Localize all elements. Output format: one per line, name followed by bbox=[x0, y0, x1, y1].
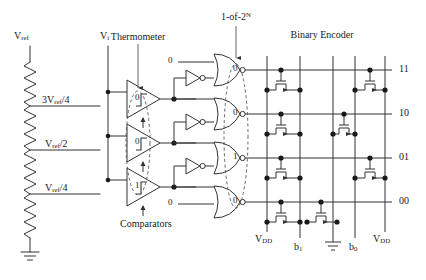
flash-adc-figure: Vref Vi 3Vref/4 Vref/2 Vref/4 Thermomete… bbox=[0, 0, 426, 280]
ladder-tap-label-1: 3Vref/4 bbox=[42, 95, 70, 106]
thermometer-bit-0: 0 bbox=[135, 93, 140, 102]
thermometer-section-label: Thermometer bbox=[111, 32, 165, 42]
one-of-2n-bit-3: 0 bbox=[233, 196, 238, 205]
resistor-ladder bbox=[21, 46, 39, 260]
ladder-tap-label-2: Vref/2 bbox=[45, 139, 68, 150]
one-of-2n-bit-1: 0 bbox=[233, 108, 238, 117]
one-of-2n-section-label: 1-of-2N bbox=[221, 12, 251, 22]
thermometer-branch-wires bbox=[174, 78, 186, 187]
b1-output-label: b1 bbox=[294, 242, 302, 253]
nor-bottom-extra-input-label: 0 bbox=[168, 198, 173, 207]
transistor-r01-c2 bbox=[355, 158, 385, 180]
inverter-1 bbox=[186, 70, 214, 86]
vdd-right-label: VDD bbox=[373, 234, 390, 245]
b0-output-label: b0 bbox=[349, 242, 357, 253]
vref-source-label: Vref bbox=[14, 31, 29, 42]
inverter-2 bbox=[186, 114, 214, 130]
vdd-left-label: VDD bbox=[255, 234, 272, 245]
one-of-2n-bit-2: 1 bbox=[233, 152, 238, 161]
transistor-r11-c2 bbox=[355, 70, 385, 92]
ladder-tap-label-3: Vref/4 bbox=[45, 183, 68, 194]
nor-gate-3 bbox=[214, 142, 262, 174]
comparators-section-label: Comparators bbox=[120, 219, 172, 229]
thermometer-bit-2: 1 bbox=[135, 181, 140, 190]
encoder-output-01: 01 bbox=[399, 152, 409, 162]
nor-gate-1 bbox=[214, 54, 262, 86]
vi-input-bus bbox=[108, 46, 127, 182]
transistor-r10-c2 bbox=[333, 114, 355, 136]
transistor-r00-c1 bbox=[267, 202, 300, 224]
transistor-r00-c2-dots bbox=[304, 199, 339, 224]
nor-gate-4 bbox=[214, 186, 262, 218]
vi-input-label: Vi bbox=[100, 31, 109, 42]
inverter-3 bbox=[186, 158, 214, 174]
nor-top-extra-input-label: 0 bbox=[168, 56, 173, 65]
encoder-output-11: 11 bbox=[399, 64, 409, 74]
encoder-output-10: 10 bbox=[399, 108, 409, 118]
transistor-r01-c1 bbox=[267, 158, 300, 180]
nor-gate-2 bbox=[214, 98, 262, 130]
thermometer-direct-wires bbox=[174, 99, 214, 187]
encoder-output-00: 00 bbox=[399, 196, 409, 206]
transistor-r10-c1 bbox=[267, 114, 300, 136]
nor-extra-input-wires bbox=[178, 62, 214, 204]
comparator-3 bbox=[127, 168, 196, 216]
one-of-2n-bit-0: 0 bbox=[233, 64, 238, 73]
thermometer-bit-1: 0 bbox=[135, 137, 140, 146]
transistor-r11-c1 bbox=[267, 70, 300, 92]
binary-encoder-section-label: Binary Encoder bbox=[290, 30, 353, 40]
encoder-ground-symbol bbox=[325, 242, 341, 250]
